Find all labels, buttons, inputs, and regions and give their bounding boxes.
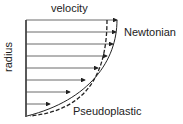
velocity-arrows [26, 20, 117, 104]
newtonian-label: Newtonian [124, 26, 176, 38]
radius-label: radius [2, 42, 14, 72]
velocity-label: velocity [51, 2, 88, 14]
pseudoplastic-label: Pseudoplastic [73, 105, 142, 117]
